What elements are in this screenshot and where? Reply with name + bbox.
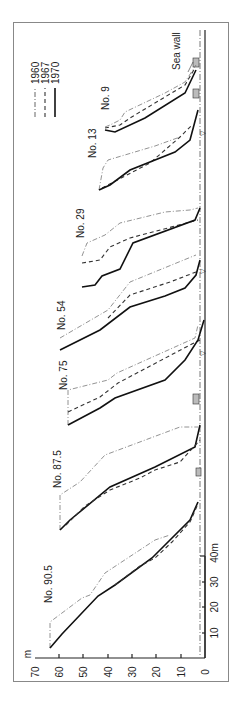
profile-label-13: No. 13 [87, 128, 98, 158]
tick-20: 20 [151, 666, 162, 678]
profile-label-75: No. 75 [58, 360, 69, 390]
profile-label-54: No. 54 [56, 300, 67, 330]
profile-13-1970 [99, 110, 198, 190]
tick-30: 30 [127, 666, 138, 678]
profile-75-1960 [68, 325, 198, 425]
scale-10: 10 [209, 627, 220, 639]
elevation-axis [35, 30, 205, 658]
profile-label-29: No. 29 [75, 208, 86, 238]
profile-90-5-1960 [50, 535, 170, 648]
profile-curves [50, 65, 204, 648]
profile-29-1970 [82, 208, 200, 287]
profile-13-1960 [99, 137, 180, 190]
profile-87-5-1967 [66, 440, 200, 525]
scale-30: 30 [209, 576, 220, 588]
profile-29-1967 [82, 220, 198, 263]
tick-60: 60 [54, 666, 65, 678]
profile-54-1967 [108, 272, 196, 318]
profile-54-1970 [60, 260, 200, 350]
elevation-tick-labels: 70 60 50 40 30 20 10 0 m [22, 650, 211, 678]
legend-1970-label: 1970 [50, 61, 61, 84]
legend: 1960 1967 1970 [30, 61, 61, 117]
profile-90-5-1967 [115, 504, 198, 585]
axis-unit: m [22, 650, 33, 658]
tick-10: 10 [176, 666, 187, 678]
sea-wall-icon [193, 394, 199, 404]
tick-0: 0 [200, 669, 211, 675]
profile-9-1970 [105, 70, 196, 132]
beach-profile-chart: 70 60 50 40 30 20 10 0 m 10 20 30 40m 19… [0, 0, 237, 701]
profile-label-9: No. 9 [100, 86, 111, 110]
profile-75-1967 [68, 340, 200, 412]
scale-20: 20 [209, 601, 220, 613]
sea-wall-icon [193, 89, 199, 98]
profile-labels: No. 90.5 No. 87.5 No. 75 No. 54 No. 29 N… [43, 86, 111, 603]
distance-scale-bar [200, 556, 205, 658]
tick-70: 70 [30, 666, 41, 678]
tick-50: 50 [78, 666, 89, 678]
profile-9-1967 [105, 68, 195, 128]
sea-wall-leader [188, 62, 193, 72]
profile-13-1967 [102, 125, 192, 188]
tick-40: 40 [103, 666, 114, 678]
sea-wall-icon [196, 468, 201, 476]
profile-29-1960 [82, 208, 198, 256]
profile-9-1960 [105, 65, 196, 127]
scale-40m: 40m [209, 543, 220, 562]
profile-label-87-5: No. 87.5 [52, 450, 63, 488]
profile-90-5-1970 [50, 502, 198, 648]
sea-wall-label: Sea wall [171, 32, 182, 70]
profile-87-5-1970 [60, 425, 200, 530]
profile-label-90-5: No. 90.5 [43, 565, 54, 603]
scale-bar-labels: 10 20 30 40m [209, 543, 220, 638]
